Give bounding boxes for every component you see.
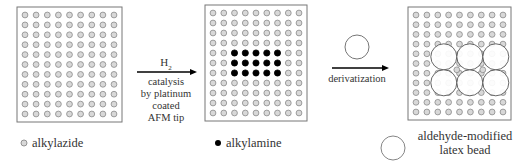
alkylazide-dot: [56, 111, 62, 117]
alkylazide-dot: [210, 70, 216, 76]
alkylazide-dot: [221, 90, 227, 96]
alkylazide-dot: [232, 100, 238, 106]
alkylazide-dot: [56, 81, 62, 87]
alkylazide-dot: [89, 42, 95, 48]
alkylazide-dot: [253, 40, 259, 46]
alkylazide-dot: [424, 90, 430, 96]
alkylazide-dot: [22, 22, 28, 28]
alkylazide-dot: [111, 62, 117, 68]
alkylazide-dot: [100, 91, 106, 97]
alkylazide-dot: [111, 52, 117, 58]
alkylazide-dot: [221, 80, 227, 86]
alkylazide-dot: [413, 22, 419, 28]
alkylazide-dot: [232, 20, 238, 26]
alkylazide-dot: [221, 110, 227, 116]
step1-caption-line3: coated: [152, 100, 180, 111]
alkylazide-dot: [413, 80, 419, 86]
alkylamine-dot: [264, 60, 270, 66]
alkylamine-dot: [274, 60, 280, 66]
surface-patterning-diagram: H2 catalysis by platinum coated AFM tip …: [0, 0, 528, 167]
step1-caption-line4: AFM tip: [148, 112, 184, 123]
alkylazide-dot: [33, 62, 39, 68]
alkylazide-dot: [22, 12, 28, 18]
alkylazide-dot: [424, 109, 430, 115]
alkylazide-dot: [100, 32, 106, 38]
alkylazide-dot: [56, 91, 62, 97]
alkylazide-dot: [500, 32, 506, 38]
alkylazide-dot: [446, 12, 452, 18]
alkylazide-dot: [78, 101, 84, 107]
alkylazide-dot: [424, 70, 430, 76]
alkylazide-dot: [253, 110, 259, 116]
alkylamine-dot: [242, 50, 248, 56]
alkylamine-dot: [274, 70, 280, 76]
alkylazide-dot: [253, 80, 259, 86]
alkylazide-dot: [264, 30, 270, 36]
alkylazide-dot: [413, 61, 419, 67]
alkylazide-dot: [78, 12, 84, 18]
alkylazide-dot: [44, 81, 50, 87]
alkylazide-dot: [253, 10, 259, 16]
alkylazide-dot: [253, 90, 259, 96]
alkylazide-dot: [435, 99, 441, 105]
alkylamine-dot: [242, 70, 248, 76]
alkylazide-dot: [56, 101, 62, 107]
alkylazide-dot: [89, 32, 95, 38]
alkylazide-dot: [285, 30, 291, 36]
alkylazide-dot: [100, 52, 106, 58]
latex-bead: [483, 44, 509, 70]
alkylazide-dot: [285, 40, 291, 46]
alkylazide-dot: [78, 62, 84, 68]
alkylazide-dot: [489, 12, 495, 18]
alkylazide-dot: [44, 12, 50, 18]
alkylazide-dot: [457, 99, 463, 105]
alkylazide-dot: [413, 41, 419, 47]
alkylazide-dot: [296, 50, 302, 56]
alkylazide-dot: [67, 22, 73, 28]
alkylazide-dot: [264, 40, 270, 46]
alkylazide-dot: [500, 99, 506, 105]
alkylazide-dot: [242, 110, 248, 116]
alkylazide-dot: [285, 10, 291, 16]
alkylazide-dot: [221, 70, 227, 76]
alkylamine-dot: [264, 50, 270, 56]
alkylazide-dot: [111, 32, 117, 38]
alkylazide-dot: [67, 72, 73, 78]
alkylazide-dot: [111, 101, 117, 107]
alkylazide-dot: [44, 52, 50, 58]
alkylazide-dot: [285, 70, 291, 76]
alkylamine-dot: [253, 60, 259, 66]
alkylazide-dot: [221, 30, 227, 36]
alkylazide-dot: [457, 22, 463, 28]
alkylazide-surface-panel: [17, 7, 122, 122]
alkylazide-dot: [500, 22, 506, 28]
alkylazide-dot: [67, 111, 73, 117]
alkylazide-dot: [221, 10, 227, 16]
alkylamine-dot: [231, 60, 237, 66]
alkylamine-dot: [231, 50, 237, 56]
alkylazide-dot: [56, 62, 62, 68]
alkylazide-dot: [33, 22, 39, 28]
alkylazide-dot: [78, 72, 84, 78]
alkylazide-dot: [67, 42, 73, 48]
alkylazide-dot: [264, 20, 270, 26]
alkylazide-dot: [489, 99, 495, 105]
alkylazide-dot: [296, 110, 302, 116]
alkylazide-dot: [89, 111, 95, 117]
alkylazide-dot: [489, 22, 495, 28]
alkylazide-dot: [89, 62, 95, 68]
alkylazide-dot: [232, 110, 238, 116]
alkylazide-dot: [210, 100, 216, 106]
alkylazide-dot: [210, 110, 216, 116]
alkylazide-dot: [221, 20, 227, 26]
alkylazide-dot: [33, 42, 39, 48]
alkylazide-dot: [33, 32, 39, 38]
alkylazide-dot: [111, 111, 117, 117]
alkylazide-dot: [89, 52, 95, 58]
alkylazide-dot: [478, 41, 484, 47]
alkylazide-dot: [22, 91, 28, 97]
alkylazide-dot: [285, 80, 291, 86]
alkylazide-dot: [413, 51, 419, 57]
alkylazide-dot: [285, 90, 291, 96]
alkylazide-dot: [413, 109, 419, 115]
